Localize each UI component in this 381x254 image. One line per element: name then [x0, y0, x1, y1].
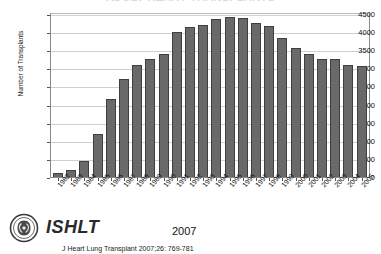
bar [238, 18, 248, 177]
bar [106, 99, 116, 177]
bar [304, 54, 314, 177]
bar [343, 65, 353, 177]
bar [251, 23, 261, 177]
page-title: ADULT HEART TRANSPLANTS [0, 0, 381, 3]
bar [172, 32, 182, 177]
ishlt-wordmark: ISHLT [46, 217, 99, 238]
bar [357, 66, 367, 177]
bar [264, 26, 274, 177]
y-tick-mark [47, 142, 50, 143]
y-tick-mark [47, 15, 50, 16]
bar [185, 27, 195, 177]
y-tick-mark [47, 33, 50, 34]
y-tick-mark [47, 106, 50, 107]
chart-page: ADULT HEART TRANSPLANTS Number of Transp… [0, 0, 381, 254]
bar [225, 17, 235, 177]
ishlt-emblem-icon [9, 213, 39, 243]
bar [198, 25, 208, 177]
bar [330, 59, 340, 177]
bar [291, 48, 301, 177]
bar-series [51, 14, 369, 177]
bar [132, 65, 142, 177]
y-tick-mark [47, 160, 50, 161]
y-tick-mark [47, 51, 50, 52]
footer-citation: J Heart Lung Transplant 2007;26: 769-781 [62, 245, 194, 252]
y-tick-mark [47, 124, 50, 125]
y-tick-mark [47, 69, 50, 70]
footer-year: 2007 [172, 225, 196, 237]
footer: ISHLT 2007 J Heart Lung Transplant 2007;… [0, 209, 381, 254]
y-tick-mark [47, 178, 50, 179]
bar [93, 134, 103, 177]
bar [211, 19, 221, 177]
bar [159, 54, 169, 177]
chart-area: Number of Transplants 050010001500200025… [6, 8, 375, 208]
y-tick-mark [47, 87, 50, 88]
bar [277, 38, 287, 177]
bar [145, 59, 155, 177]
bar [317, 59, 327, 177]
bar [119, 79, 129, 177]
y-axis-title: Number of Transplants [17, 19, 24, 109]
